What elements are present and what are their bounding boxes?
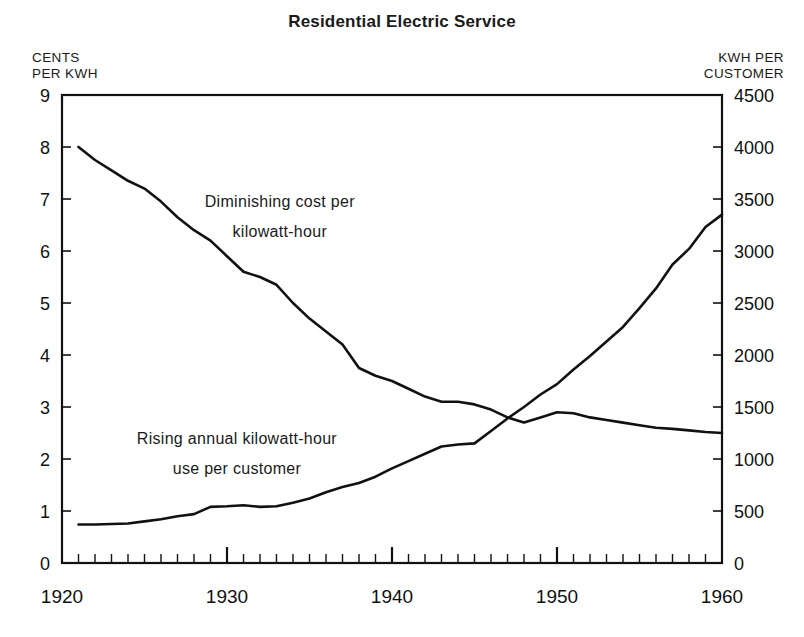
annotation-2-line-1: Rising annual kilowatt-hour <box>137 430 338 447</box>
x-tick-label: 1920 <box>41 586 83 607</box>
chart-plot-area: 0123456789 05001000150020002500300035004… <box>0 0 804 637</box>
right-tick-label: 500 <box>734 502 764 522</box>
annotation-1-line-1: Diminishing cost per <box>205 193 355 210</box>
right-tick-label: 2000 <box>734 346 774 366</box>
right-tick-label: 1500 <box>734 398 774 418</box>
right-tick-label: 4500 <box>734 86 774 106</box>
left-tick-label: 4 <box>40 346 50 366</box>
plot-frame <box>62 95 722 563</box>
left-tick-label: 9 <box>40 86 50 106</box>
x-tick-label: 1940 <box>371 586 413 607</box>
right-tick-label: 3000 <box>734 242 774 262</box>
left-tick-label: 5 <box>40 294 50 314</box>
x-tick-label: 1950 <box>536 586 578 607</box>
plot-border <box>62 95 722 563</box>
left-axis-ticks: 0123456789 <box>40 86 71 574</box>
x-axis-ticks: 19201930194019501960 <box>41 547 743 607</box>
left-tick-label: 2 <box>40 450 50 470</box>
right-tick-label: 3500 <box>734 190 774 210</box>
right-tick-label: 0 <box>734 554 744 574</box>
right-tick-label: 4000 <box>734 138 774 158</box>
annotation-2-line-2: use per customer <box>173 460 302 477</box>
left-tick-label: 8 <box>40 138 50 158</box>
series-line-kwh-per-customer <box>79 215 723 525</box>
left-tick-label: 7 <box>40 190 50 210</box>
series-line-cost-per-kwh <box>79 147 723 433</box>
left-tick-label: 1 <box>40 502 50 522</box>
left-tick-label: 0 <box>40 554 50 574</box>
annotations-group: Diminishing cost perkilowatt-hourRising … <box>137 193 355 478</box>
x-tick-label: 1930 <box>206 586 248 607</box>
annotation-1-line-2: kilowatt-hour <box>232 223 327 240</box>
chart-figure: Residential Electric Service CENTS PER K… <box>0 0 804 637</box>
right-tick-label: 2500 <box>734 294 774 314</box>
x-tick-label: 1960 <box>701 586 743 607</box>
left-tick-label: 3 <box>40 398 50 418</box>
left-tick-label: 6 <box>40 242 50 262</box>
right-tick-label: 1000 <box>734 450 774 470</box>
